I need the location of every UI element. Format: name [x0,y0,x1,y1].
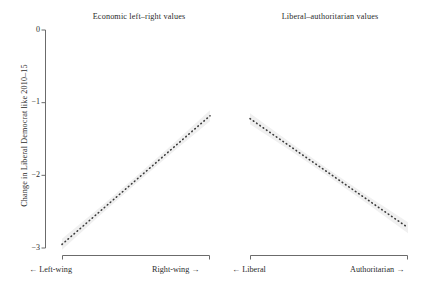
trend-lines [62,116,408,245]
chart-figure: Economic left–right values Liberal–autho… [0,0,441,287]
x-axis-bracket-0 [63,256,210,260]
plot-area [0,0,441,287]
x-axis-bracket-1 [251,256,408,260]
confidence-bands [62,110,408,250]
trend-line-0 [62,116,210,245]
x-axis-brackets [63,256,408,260]
y-axis [42,30,46,248]
y-axis-ticks [42,30,46,248]
